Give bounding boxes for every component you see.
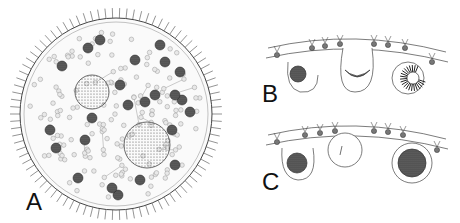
panel-label-a: A — [26, 190, 42, 214]
figure: A B C — [0, 0, 460, 223]
panel-label-b: B — [262, 82, 278, 106]
panel-b-section — [266, 39, 448, 94]
panel-label-c: C — [262, 170, 279, 194]
panel-c-section — [266, 126, 448, 183]
illustration — [0, 0, 460, 223]
